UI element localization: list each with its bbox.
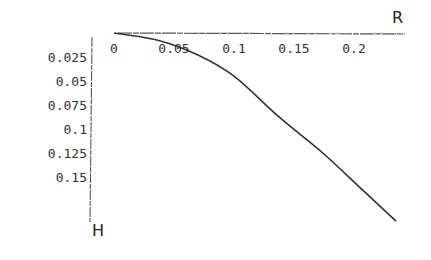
y-tick-label: 0.15 (56, 170, 87, 185)
y-tick-label: 0.075 (48, 98, 87, 113)
x-tick-label: 0.1 (222, 41, 245, 56)
y-axis-line (90, 37, 92, 222)
y-tick-label: 0.125 (48, 146, 87, 161)
x-axis: 00.050.10.150.2 (110, 33, 405, 56)
y-axis-label: H (92, 221, 104, 240)
x-tick-label: 0.15 (278, 41, 309, 56)
x-axis-line (118, 33, 405, 34)
x-tick-label: 0.2 (342, 41, 365, 56)
y-tick-label: 0.05 (56, 74, 87, 89)
curve-line (114, 33, 396, 221)
x-tick-label: 0 (110, 41, 118, 56)
y-tick-label: 0.025 (48, 50, 87, 65)
y-tick-label: 0.1 (64, 122, 87, 137)
y-axis: 0.0250.050.0750.10.1250.15 (48, 37, 92, 222)
plot-series (114, 33, 396, 221)
chart: 00.050.10.150.2 0.0250.050.0750.10.1250.… (0, 0, 431, 260)
x-axis-label: R (392, 8, 403, 27)
